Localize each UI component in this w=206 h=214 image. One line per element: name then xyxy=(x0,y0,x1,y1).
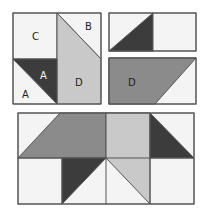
label-a-light: A xyxy=(22,89,29,100)
label-d: D xyxy=(75,77,83,88)
label-a-dark: A xyxy=(40,70,47,81)
quilt-diagram: C B A A D D xyxy=(0,0,206,214)
top-right-lower-block: D xyxy=(109,58,196,104)
top-left-block: C B A A D xyxy=(13,13,101,104)
upper-right-square xyxy=(153,13,196,51)
label-b: B xyxy=(85,21,92,32)
bottom-assembled-block xyxy=(18,113,194,204)
label-d-lower: D xyxy=(128,77,136,88)
top-right-upper-block xyxy=(109,13,196,51)
label-c: C xyxy=(32,31,39,42)
